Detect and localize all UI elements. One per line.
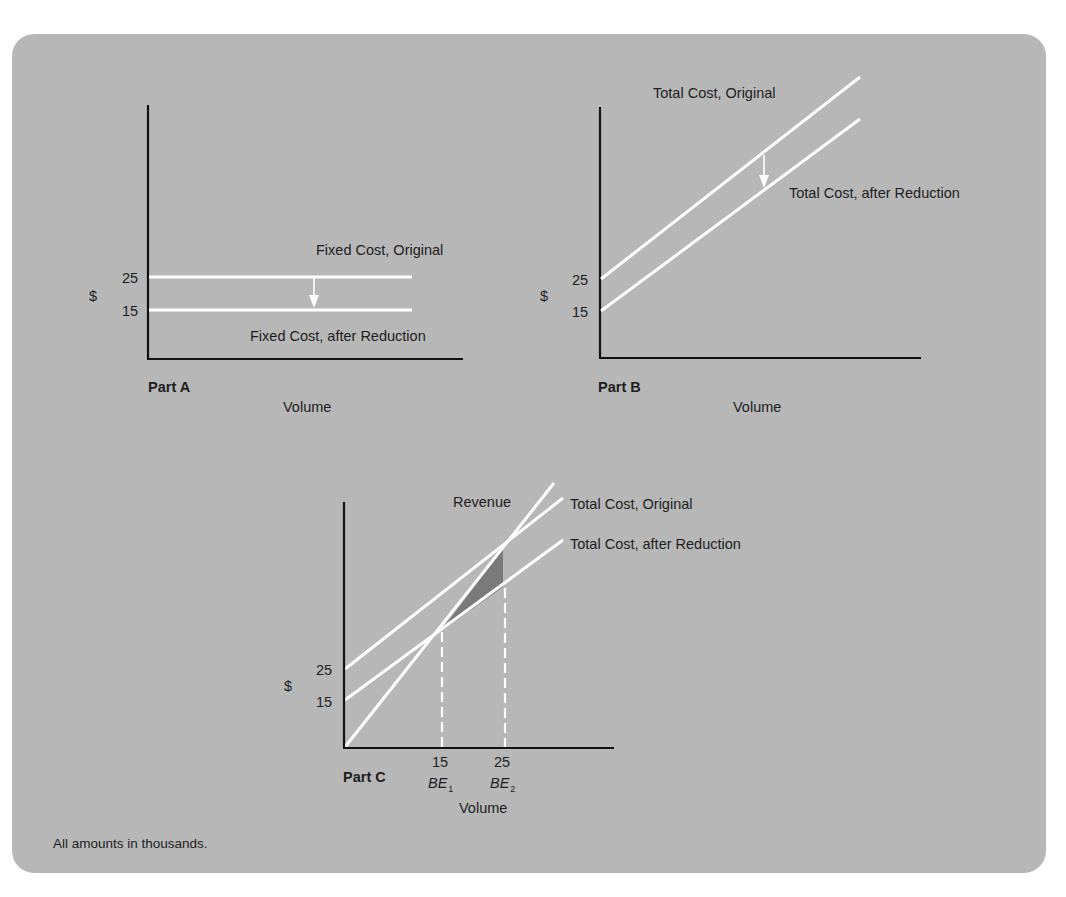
x-axis-label: Volume [283, 399, 331, 415]
y-tick-25: 25 [122, 270, 138, 286]
x-sublabel-be1: BE1 [428, 775, 453, 794]
label-revenue: Revenue [453, 494, 511, 510]
y-axis-label: $ [540, 288, 548, 304]
total-cost-reduced-line [345, 540, 563, 700]
x-sublabel-be2: BE2 [490, 775, 515, 794]
label-total-cost-reduced: Total Cost, after Reduction [570, 536, 741, 552]
y-tick-25: 25 [316, 662, 332, 678]
y-tick-15: 15 [572, 304, 588, 320]
label-fixed-cost-reduced: Fixed Cost, after Reduction [250, 328, 426, 344]
label-total-cost-original: Total Cost, Original [653, 85, 776, 101]
part-c-title: Part C [343, 769, 386, 785]
y-tick-25: 25 [572, 272, 588, 288]
total-cost-original-line [601, 77, 860, 279]
revenue-line [345, 483, 554, 747]
part-a-title: Part A [148, 379, 191, 395]
x-tick-15: 15 [432, 754, 448, 770]
y-tick-15: 15 [122, 303, 138, 319]
x-tick-25: 25 [494, 754, 510, 770]
x-axis-label: Volume [733, 399, 781, 415]
label-total-cost-original: Total Cost, Original [570, 496, 693, 512]
chart-part-c: Revenue Total Cost, Original Total Cost,… [284, 483, 741, 816]
arrow-down-icon [309, 278, 319, 308]
chart-canvas: Fixed Cost, Original Fixed Cost, after R… [0, 0, 1066, 897]
part-b-title: Part B [598, 379, 641, 395]
label-total-cost-reduced: Total Cost, after Reduction [789, 185, 960, 201]
label-fixed-cost-original: Fixed Cost, Original [316, 242, 443, 258]
y-tick-15: 15 [316, 694, 332, 710]
chart-part-b: Total Cost, Original Total Cost, after R… [540, 77, 960, 415]
total-cost-original-line [345, 498, 563, 669]
y-axis-label: $ [89, 288, 97, 304]
chart-part-a: Fixed Cost, Original Fixed Cost, after R… [89, 105, 463, 415]
x-axis-label: Volume [459, 800, 507, 816]
arrow-down-icon [759, 155, 769, 188]
footnote: All amounts in thousands. [53, 836, 208, 851]
y-axis-label: $ [284, 678, 292, 694]
total-cost-reduced-line [601, 119, 860, 311]
